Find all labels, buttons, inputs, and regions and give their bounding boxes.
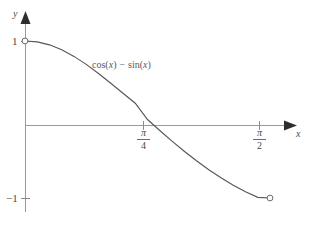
pi-numerator-two: π <box>253 128 266 139</box>
right-open-endpoint-circle <box>267 195 273 201</box>
sin-open-text: sin( <box>128 59 143 70</box>
denominator-two: 2 <box>253 141 266 152</box>
denominator-four: 4 <box>137 141 150 152</box>
y-tick-label-minus-one: −1 <box>6 193 18 204</box>
y-axis-arrowhead <box>21 11 31 24</box>
y-tick-label-one: 1 <box>12 36 18 47</box>
function-plot-figure: y x 1 −1 π 4 π 2 cos(x)−sin(x) <box>0 0 311 230</box>
x-axis-label: x <box>296 129 300 139</box>
minus-operator-text: − <box>116 59 128 70</box>
y-axis-label: y <box>13 9 17 19</box>
x-tick-label-pi-over-four: π 4 <box>137 128 150 151</box>
curve-function-label: cos(x)−sin(x) <box>92 60 151 70</box>
x-tick-label-pi-over-two: π 2 <box>253 128 266 151</box>
cos-open-text: cos( <box>92 59 109 70</box>
plot-canvas <box>0 0 311 230</box>
sin-close-text: ) <box>148 59 151 70</box>
pi-numerator-four: π <box>137 128 150 139</box>
left-open-endpoint-circle <box>22 38 28 44</box>
